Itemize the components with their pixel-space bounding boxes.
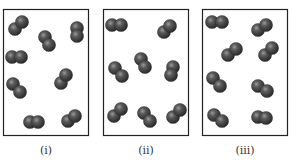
diatomic-molecule bbox=[137, 106, 156, 127]
atom bbox=[259, 18, 272, 31]
diatomic-molecule bbox=[166, 103, 186, 123]
atom bbox=[13, 85, 26, 98]
diatomic-molecule bbox=[251, 79, 273, 97]
atom bbox=[114, 18, 127, 31]
atom bbox=[15, 15, 28, 28]
atom bbox=[31, 115, 44, 128]
atom bbox=[114, 102, 127, 115]
atom bbox=[213, 79, 226, 92]
atom bbox=[115, 69, 128, 82]
atom bbox=[164, 68, 177, 81]
panel-iii bbox=[203, 10, 288, 136]
atom bbox=[260, 84, 273, 97]
diatomic-molecule bbox=[205, 15, 228, 28]
atom bbox=[265, 41, 278, 54]
molecule-diagram bbox=[0, 0, 292, 167]
atom bbox=[68, 109, 81, 122]
molecules-i bbox=[5, 15, 83, 128]
atom bbox=[215, 15, 228, 28]
atom bbox=[143, 114, 156, 127]
diatomic-molecule bbox=[8, 15, 28, 35]
atom bbox=[259, 111, 272, 124]
diatomic-molecule bbox=[105, 18, 127, 31]
atom bbox=[14, 50, 27, 63]
molecules-iii bbox=[205, 15, 278, 127]
molecules-ii bbox=[105, 18, 186, 127]
atom bbox=[42, 38, 55, 51]
diatomic-molecule bbox=[206, 71, 226, 92]
diatomic-molecule bbox=[6, 77, 26, 98]
atom bbox=[173, 103, 186, 116]
panel-label-ii: (ii) bbox=[116, 144, 176, 157]
diatomic-molecule bbox=[258, 41, 278, 61]
panel-label-i: (i) bbox=[16, 144, 76, 157]
diatomic-molecule bbox=[5, 50, 27, 63]
diatomic-molecule bbox=[54, 68, 72, 89]
diatomic-molecule bbox=[207, 108, 228, 127]
atom bbox=[59, 68, 72, 81]
diatomic-molecule bbox=[157, 19, 176, 38]
diatomic-molecule bbox=[164, 60, 179, 81]
diatomic-molecule bbox=[107, 102, 127, 122]
atom bbox=[163, 19, 176, 32]
diatomic-molecule bbox=[23, 115, 44, 128]
diatomic-molecule bbox=[70, 21, 83, 42]
atom bbox=[215, 114, 228, 127]
diatomic-molecule bbox=[108, 61, 128, 82]
diatomic-molecule bbox=[221, 42, 242, 61]
atom bbox=[70, 29, 83, 42]
panel-label-iii: (iii) bbox=[215, 144, 275, 157]
diatomic-molecule bbox=[251, 18, 272, 36]
diatomic-molecule bbox=[251, 110, 272, 124]
diatomic-molecule bbox=[61, 109, 81, 127]
panel-ii bbox=[104, 10, 189, 136]
atom bbox=[138, 60, 151, 73]
diatomic-molecule bbox=[134, 52, 151, 73]
atom bbox=[229, 42, 242, 55]
diatomic-molecule bbox=[38, 30, 55, 51]
panel-i bbox=[4, 10, 89, 136]
